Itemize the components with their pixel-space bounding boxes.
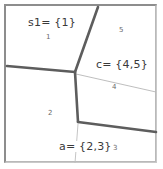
region-number-4: 4 [112, 84, 116, 91]
region-number-2: 2 [48, 110, 52, 117]
region-number-1: 1 [46, 34, 50, 41]
region-number-5: 5 [119, 27, 123, 34]
boundary-middle-vertical [75, 72, 78, 122]
boundary-left-horizontal [7, 66, 75, 72]
region-number-3: 3 [113, 145, 117, 152]
boundary-bottom-right [78, 122, 156, 132]
partition-diagram: s1= {1} c= {4,5} a= {2,3} 1 5 4 2 3 [0, 0, 163, 169]
set-label-a: a= {2,3} [58, 141, 113, 152]
set-label-s1: s1= {1} [28, 17, 76, 28]
set-label-c: c= {4,5} [95, 59, 149, 70]
